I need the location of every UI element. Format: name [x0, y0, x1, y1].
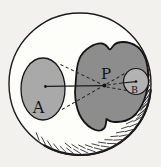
figure-stage: A P B	[0, 0, 161, 167]
point-a-center-dot	[44, 85, 47, 88]
point-p-dot	[103, 84, 107, 88]
label-a: A	[32, 98, 45, 117]
point-b-center-dot	[135, 80, 138, 83]
diagram-canvas: A P B	[0, 0, 161, 167]
label-p: P	[101, 65, 111, 83]
label-b: B	[131, 84, 138, 95]
